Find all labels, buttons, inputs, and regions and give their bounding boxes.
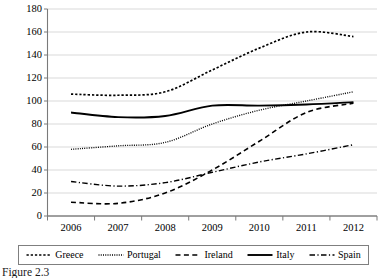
series-line-greece	[71, 32, 353, 96]
legend-label: Portugal	[127, 250, 161, 260]
y-tick-label: 180	[6, 4, 42, 15]
legend-label: Greece	[55, 250, 83, 260]
y-tick-label: 20	[6, 188, 42, 199]
legend-swatch-portugal	[98, 250, 124, 260]
chart-plot-area: 020406080100120140160180 200620072008200…	[0, 0, 389, 240]
y-tick-label: 120	[6, 73, 42, 84]
figure-caption: Figure 2.3	[2, 266, 387, 278]
y-tick-label: 0	[6, 211, 42, 222]
series-line-italy	[71, 102, 353, 117]
legend-label: Italy	[276, 250, 294, 260]
y-tick-label: 60	[6, 142, 42, 153]
legend-swatch-ireland	[175, 250, 201, 260]
x-tick-label-2012: 2012	[329, 223, 377, 234]
legend-entry-spain[interactable]: Spain	[309, 250, 361, 260]
y-tick-label: 140	[6, 50, 42, 61]
x-tick-label-2011: 2011	[282, 223, 330, 234]
series-line-portugal	[71, 92, 353, 150]
series-lines-group	[71, 32, 353, 204]
legend-entry-italy[interactable]: Italy	[247, 250, 294, 260]
legend-label: Spain	[338, 250, 361, 260]
legend-entry-greece[interactable]: Greece	[26, 250, 83, 260]
y-tick-label: 40	[6, 165, 42, 176]
legend-swatch-spain	[309, 250, 335, 260]
y-tick-label: 80	[6, 119, 42, 130]
series-line-spain	[71, 145, 353, 186]
legend-entry-portugal[interactable]: Portugal	[98, 250, 161, 260]
x-tick-label-2006: 2006	[47, 223, 95, 234]
y-tick-label: 100	[6, 96, 42, 107]
line-chart-svg	[0, 0, 389, 240]
legend-entry-ireland[interactable]: Ireland	[175, 250, 232, 260]
legend-swatch-italy	[247, 250, 273, 260]
legend-swatch-greece	[26, 250, 52, 260]
y-tick-label: 160	[6, 27, 42, 38]
x-tick-label-2009: 2009	[188, 223, 236, 234]
x-tick-label-2008: 2008	[141, 223, 189, 234]
chart-legend: GreecePortugalIrelandItalySpain	[18, 245, 369, 265]
x-tick-label-2010: 2010	[235, 223, 283, 234]
x-tick-label-2007: 2007	[94, 223, 142, 234]
legend-label: Ireland	[204, 250, 232, 260]
